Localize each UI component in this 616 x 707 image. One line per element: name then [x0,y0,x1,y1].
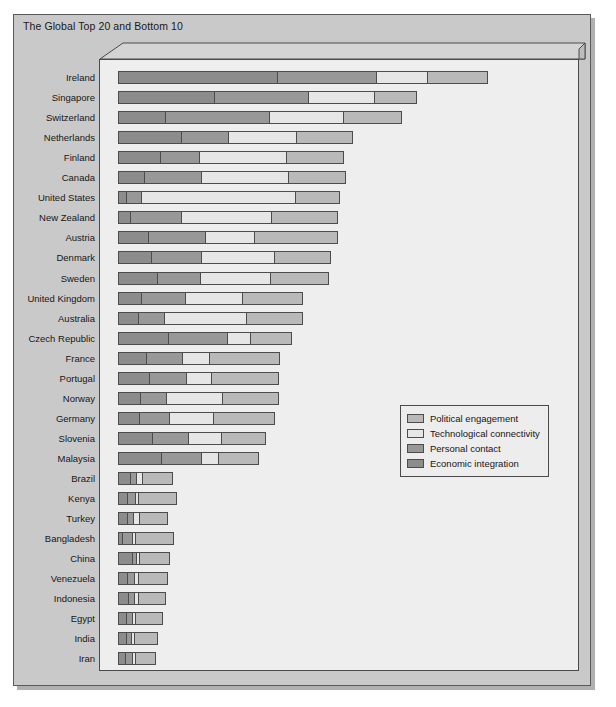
table-row: New Zealand [100,208,578,228]
stacked-bar [118,251,331,264]
bar-segment-technological [188,433,221,444]
bar-segment-technological [201,172,288,183]
bar-segment-economic [119,72,277,83]
bar-segment-personal [144,172,201,183]
bar-segment-personal [152,433,188,444]
bar-segment-political [271,212,338,223]
bar-segment-political [218,453,258,464]
stacked-bar [118,512,168,525]
legend-item: Personal contact [407,441,540,456]
stacked-bar [118,612,163,625]
bar-segment-personal [149,373,186,384]
stacked-bar [118,432,266,445]
bar-segment-personal [160,152,199,163]
table-row: Egypt [100,609,578,629]
bar-segment-political [138,493,175,504]
bar-segment-political [343,112,401,123]
stacked-bar [118,572,168,585]
bar-segment-technological [227,333,250,344]
table-row: United Kingdom [100,289,578,309]
bar-segment-political [134,633,157,644]
table-row: Venezuela [100,569,578,589]
bar-segment-technological [308,92,374,103]
bar-segment-economic [119,293,141,304]
table-row: China [100,549,578,569]
bar-segment-political [374,92,416,103]
table-row: Czech Republic [100,329,578,349]
bar-segment-political [139,513,167,524]
table-row: Portugal [100,369,578,389]
page-title: The Global Top 20 and Bottom 10 [23,20,183,32]
bar-segment-political [254,232,337,243]
bar-segment-economic [119,353,146,364]
stacked-bar [118,191,340,204]
stacked-bar [118,492,177,505]
table-row: Singapore [100,88,578,108]
bar-segment-personal [122,533,131,544]
bar-segment-political [221,433,265,444]
chart-card: The Global Top 20 and Bottom 10 IrelandS… [13,14,591,686]
bar-segment-technological [269,112,344,123]
bar-segment-economic [119,473,130,484]
table-row: Sweden [100,269,578,289]
stacked-bar [118,272,329,285]
bar-segment-personal [151,252,202,263]
bar-segment-economic [119,413,139,424]
bar-segment-political [222,393,277,404]
bar-segment-political [427,72,487,83]
bar-segment-economic [119,232,148,243]
bar-segment-personal [157,273,201,284]
legend-label: Personal contact [430,443,501,454]
bar-segment-political [286,152,343,163]
stacked-bar [118,312,303,325]
bar-segment-economic [119,493,127,504]
bar-segment-political [246,313,302,324]
bar-segment-personal [165,112,268,123]
table-row: Australia [100,309,578,329]
bar-segment-technological [201,453,219,464]
bar-segment-economic [119,633,126,644]
bar-segment-technological [186,373,211,384]
table-row: United States [100,188,578,208]
legend-label: Technological connectivity [430,428,540,439]
table-row: Turkey [100,509,578,529]
bar-segment-technological [166,393,222,404]
bar-segment-political [135,613,162,624]
stacked-bar [118,151,344,164]
stacked-bar [118,632,158,645]
stacked-bar [118,332,292,345]
bar-segment-economic [119,393,140,404]
bar-segment-technological [200,273,269,284]
bar-segment-economic [119,313,138,324]
table-row: India [100,629,578,649]
table-row: Austria [100,228,578,248]
bar-segment-political [139,553,169,564]
bar-segment-economic [119,112,165,123]
table-row: Denmark [100,248,578,268]
table-row: Canada [100,168,578,188]
stacked-bar [118,292,303,305]
bar-segment-economic [119,573,127,584]
bar-segment-technological [164,313,247,324]
bar-segment-technological [228,132,297,143]
bar-segment-personal [130,212,181,223]
bar-segment-personal [139,413,169,424]
bar-segment-economic [119,192,126,203]
bar-segment-economic [119,433,152,444]
stacked-bar [118,171,346,184]
stacked-bar [118,412,275,425]
stacked-bar [118,472,173,485]
bar-segment-technological [141,192,295,203]
bar-segment-political [142,473,172,484]
bar-segment-economic [119,212,130,223]
table-row: Finland [100,148,578,168]
bar-segment-economic [119,373,149,384]
bar-segment-technological [185,293,241,304]
bar-segment-personal [277,72,377,83]
bar-segment-political [211,373,278,384]
bar-segment-economic [119,453,161,464]
bar-segment-personal [148,232,205,243]
bar-segment-personal [161,453,201,464]
bar-segment-political [242,293,302,304]
legend-label: Economic integration [430,458,519,469]
